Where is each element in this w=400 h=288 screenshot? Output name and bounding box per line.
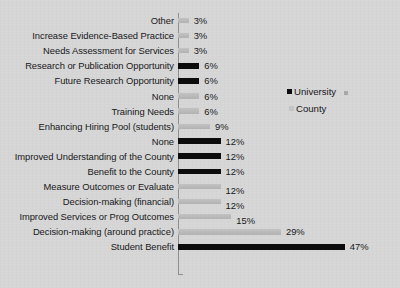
bar-track: 29% xyxy=(178,224,400,239)
chart-row: Training Needs6% xyxy=(0,104,400,119)
category-label: Future Research Opportunity xyxy=(0,75,178,86)
bar-chart: Other3%Increase Evidence-Based Practice3… xyxy=(0,0,400,288)
bar-university xyxy=(178,78,199,84)
chart-legend: University County xyxy=(287,86,336,114)
bar-value-label: 12% xyxy=(226,166,245,177)
bar-value-label: 3% xyxy=(194,30,208,41)
bar-university xyxy=(178,169,221,175)
bar-university xyxy=(178,244,345,250)
chart-row: Other3% xyxy=(0,13,400,28)
category-label: Student Benefit xyxy=(0,241,178,252)
legend-swatch-university-icon xyxy=(287,89,292,94)
bar-track: 3% xyxy=(178,43,400,58)
chart-row: None6% xyxy=(0,88,400,103)
chart-row: Benefit to the County12% xyxy=(0,164,400,179)
bar-county xyxy=(178,108,199,113)
bar-track: 12% xyxy=(178,179,400,194)
category-label: None xyxy=(0,91,178,102)
bar-track: 9% xyxy=(178,119,400,134)
plot-area: Other3%Increase Evidence-Based Practice3… xyxy=(0,13,400,255)
bar-track: 15% xyxy=(178,209,400,224)
bar-value-label: 6% xyxy=(204,91,218,102)
legend-swatch-county-icon xyxy=(289,106,294,111)
bar-track: 47% xyxy=(178,239,400,254)
bar-value-label: 12% xyxy=(226,136,245,147)
bar-value-label: 3% xyxy=(194,15,208,26)
bar-county xyxy=(178,214,231,219)
category-label: None xyxy=(0,136,178,147)
category-label: Research or Publication Opportunity xyxy=(0,60,178,71)
bar-county xyxy=(178,184,221,189)
bar-track: 12% xyxy=(178,149,400,164)
legend-item-university: University xyxy=(287,86,336,97)
bar-track: 12% xyxy=(178,164,400,179)
value-axis-foot-tick xyxy=(178,274,183,275)
scan-artifact-mark xyxy=(344,91,348,95)
category-label: Enhancing Hiring Pool (students) xyxy=(0,121,178,132)
category-label: Improved Understanding of the County xyxy=(0,151,178,162)
category-label: Training Needs xyxy=(0,106,178,117)
chart-row: None12% xyxy=(0,134,400,149)
bar-county xyxy=(178,124,210,129)
bar-track: 3% xyxy=(178,28,400,43)
chart-row: Improved Services or Prog Outcomes15% xyxy=(0,209,400,224)
chart-row: Student Benefit47% xyxy=(0,239,400,254)
category-label: Other xyxy=(0,15,178,26)
bar-track: 12% xyxy=(178,194,400,209)
bar-value-label: 29% xyxy=(286,226,305,237)
bar-value-label: 6% xyxy=(204,75,218,86)
bar-county xyxy=(178,229,281,234)
bar-university xyxy=(178,153,221,159)
chart-row: Measure Outcomes or Evaluate12% xyxy=(0,179,400,194)
chart-row: Future Research Opportunity6% xyxy=(0,73,400,88)
bar-county xyxy=(178,48,189,53)
category-label: Needs Assessment for Services xyxy=(0,45,178,56)
bar-university xyxy=(178,138,221,144)
category-label: Increase Evidence-Based Practice xyxy=(0,30,178,41)
bar-value-label: 6% xyxy=(204,106,218,117)
bar-track: 6% xyxy=(178,58,400,73)
chart-row: Needs Assessment for Services3% xyxy=(0,43,400,58)
bar-county xyxy=(178,33,189,38)
chart-row: Increase Evidence-Based Practice3% xyxy=(0,28,400,43)
category-label: Decision-making (financial) xyxy=(0,196,178,207)
chart-row: Enhancing Hiring Pool (students)9% xyxy=(0,119,400,134)
bar-value-label: 47% xyxy=(350,241,369,252)
legend-label-county: County xyxy=(296,103,326,114)
bar-value-label: 9% xyxy=(215,121,229,132)
bar-value-label: 6% xyxy=(204,60,218,71)
chart-row: Improved Understanding of the County12% xyxy=(0,149,400,164)
legend-label-university: University xyxy=(294,86,336,97)
category-label: Measure Outcomes or Evaluate xyxy=(0,181,178,192)
bar-county xyxy=(178,93,199,98)
bar-track: 12% xyxy=(178,134,400,149)
bar-university xyxy=(178,63,199,69)
bar-value-label: 3% xyxy=(194,45,208,56)
category-label: Improved Services or Prog Outcomes xyxy=(0,211,178,222)
bar-county xyxy=(178,199,221,204)
category-label: Decision-making (around practice) xyxy=(0,226,178,237)
category-label: Benefit to the County xyxy=(0,166,178,177)
bar-track: 3% xyxy=(178,13,400,28)
chart-row: Decision-making (around practice)29% xyxy=(0,224,400,239)
bar-county xyxy=(178,18,189,23)
chart-row: Research or Publication Opportunity6% xyxy=(0,58,400,73)
chart-row: Decision-making (financial)12% xyxy=(0,194,400,209)
legend-item-county: County xyxy=(287,103,336,114)
bar-value-label: 12% xyxy=(226,151,245,162)
